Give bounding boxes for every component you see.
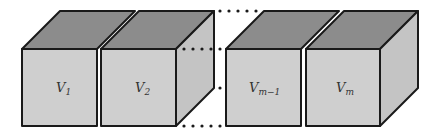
cube-row-diagram: V1 V2 Vm−1 <box>0 0 440 137</box>
